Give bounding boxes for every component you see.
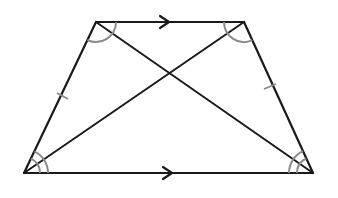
- left-leg: [24, 22, 96, 173]
- trapezoid-diagram: [0, 0, 338, 198]
- right-leg: [244, 22, 313, 173]
- diagonal-top-right-to-bottom-left: [24, 22, 244, 173]
- diagonal-top-left-to-bottom-right: [96, 22, 313, 173]
